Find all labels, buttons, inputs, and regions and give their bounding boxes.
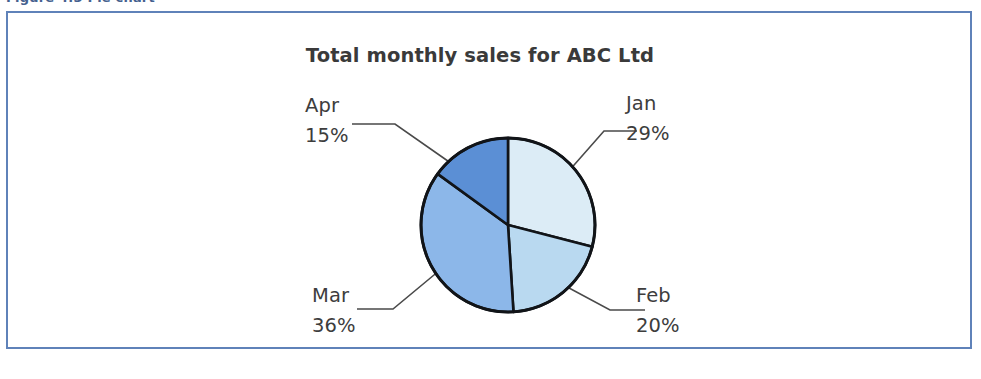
slice-value-feb: 20%	[636, 314, 680, 337]
slice-label-jan: Jan	[624, 92, 656, 115]
slice-value-jan: 29%	[626, 122, 670, 145]
leader-line-apr	[352, 124, 455, 166]
pie-chart-svg: Total monthly sales for ABC Ltd Jan29%Fe…	[0, 0, 981, 379]
slice-label-mar: Mar	[312, 284, 350, 307]
slice-value-mar: 36%	[312, 314, 356, 337]
chart-title: Total monthly sales for ABC Ltd	[306, 44, 654, 67]
pie-chart-figure: Total monthly sales for ABC Ltd Jan29%Fe…	[0, 0, 981, 379]
slice-label-apr: Apr	[305, 94, 340, 117]
leader-line-mar	[357, 270, 440, 309]
slice-value-apr: 15%	[305, 124, 349, 147]
slice-label-feb: Feb	[636, 284, 671, 307]
